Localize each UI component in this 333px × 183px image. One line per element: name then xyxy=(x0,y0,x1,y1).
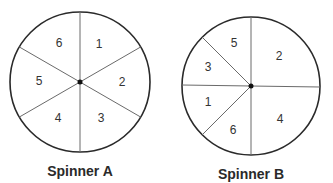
spinner-a-section-6: 6 xyxy=(56,36,63,50)
spinner-b-section-6: 6 xyxy=(230,123,237,137)
spinner-b-title: Spinner B xyxy=(218,166,284,182)
spinner-b-section-4: 4 xyxy=(277,112,284,126)
spinner-b-section-5: 5 xyxy=(231,36,238,50)
spinner-b-section-2: 2 xyxy=(276,49,283,63)
spinner-a-title: Spinner A xyxy=(47,163,113,179)
spinner-a-section-4: 4 xyxy=(55,111,62,125)
spinners-diagram: 1 2 3 4 5 6 Spinner A 5 2 3 1 6 4 Spinne… xyxy=(0,0,333,183)
spinner-a-hub xyxy=(78,80,83,85)
spinner-a-section-1: 1 xyxy=(96,37,103,51)
spinner-b: 5 2 3 1 6 4 Spinner B xyxy=(182,17,320,182)
spinner-b-section-3: 3 xyxy=(205,60,212,74)
spinner-a-section-5: 5 xyxy=(36,74,43,88)
spinner-a: 1 2 3 4 5 6 Spinner A xyxy=(10,12,150,179)
spinner-b-section-1: 1 xyxy=(205,95,212,109)
spinner-a-section-2: 2 xyxy=(119,75,126,89)
spinner-b-hub xyxy=(249,84,254,89)
spinner-a-section-3: 3 xyxy=(98,111,105,125)
